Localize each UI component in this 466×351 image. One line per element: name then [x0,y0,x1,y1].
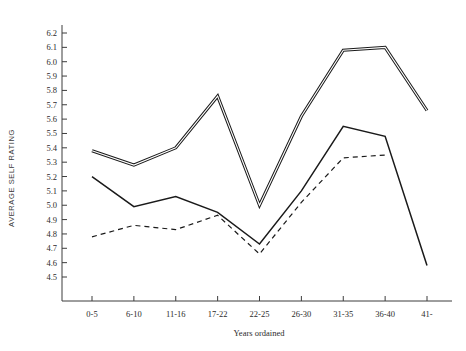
y-tick-label: 5.1 [46,186,57,196]
x-tick-label: 11-16 [166,309,186,319]
x-tick-label: 31-35 [333,309,353,319]
x-tick-label: 0-5 [86,309,97,319]
y-tick-label: 5.5 [46,128,57,138]
y-tick-label: 5.0 [46,200,57,210]
y-tick-label: 4.9 [46,215,57,225]
y-tick-label: 5.2 [46,172,57,182]
y-tick-label: 5.8 [46,85,57,95]
y-tick-label: 4.7 [46,243,57,253]
x-tick-label: 17-22 [208,309,228,319]
y-tick-label: 4.6 [46,258,57,268]
y-tick-label: 5.3 [46,157,57,167]
x-tick-label: 22-25 [250,309,270,319]
y-tick-label: 5.4 [46,143,57,153]
y-tick-label: 6.0 [46,57,57,67]
y-tick-label: 5.9 [46,71,57,81]
y-tick-label: 4.5 [46,272,57,282]
chart-plot-area: 6.26.16.05.95.85.75.65.55.45.35.25.15.04… [0,0,466,351]
series-double-line-outer [92,47,427,205]
x-axis-ticks: 0-56-1011-1617-2222-2526-3031-3536-4041- [86,296,433,319]
series-double-line-inner [92,47,427,205]
y-tick-label: 6.2 [46,28,57,38]
y-axis-ticks: 6.26.16.05.95.85.75.65.55.45.35.25.15.04… [46,28,67,282]
y-tick-label: 5.6 [46,114,57,124]
y-tick-label: 6.1 [46,42,57,52]
x-tick-label: 41- [421,309,433,319]
y-axis-title: AVERAGE SELF RATING [7,129,16,227]
x-tick-label: 36-40 [375,309,395,319]
data-series-group [92,47,427,265]
series-dashed-line [92,155,385,254]
y-tick-label: 5.7 [46,100,57,110]
x-tick-label: 26-30 [291,309,311,319]
x-tick-label: 6-10 [126,309,142,319]
y-tick-label: 4.8 [46,229,57,239]
x-axis-title: Years ordained [234,328,286,338]
series-solid-line [92,126,427,265]
chart-figure: 6.26.16.05.95.85.75.65.55.45.35.25.15.04… [0,0,466,351]
